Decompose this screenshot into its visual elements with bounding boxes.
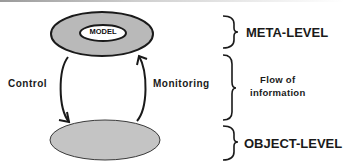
monitoring-label: Monitoring <box>153 78 210 89</box>
meta-level-label: META-LEVEL <box>246 25 328 40</box>
flow-brace-icon <box>223 55 236 120</box>
model-label: MODEL <box>84 27 122 36</box>
flow-label-line2: information <box>250 86 306 99</box>
meta-level-brace-icon <box>223 16 238 48</box>
flow-of-information-label: Flow of information <box>250 73 306 99</box>
object-level-brace-icon <box>223 126 238 160</box>
object-level-label: OBJECT-LEVEL <box>244 136 342 151</box>
flow-label-line1: Flow of <box>250 73 306 86</box>
object-level-ellipse <box>50 120 160 160</box>
monitoring-arrow <box>137 56 146 121</box>
control-label: Control <box>8 78 47 89</box>
